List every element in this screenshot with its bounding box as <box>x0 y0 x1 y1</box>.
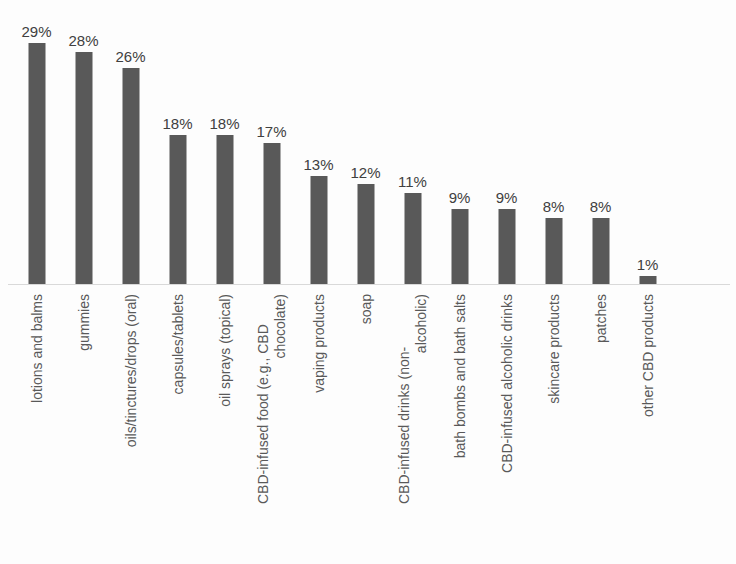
category-label: skincare products <box>545 294 562 404</box>
bar[interactable] <box>639 276 656 284</box>
bar-value-label: 12% <box>350 164 380 181</box>
category-label-slot: oils/tinctures/drops (oral) <box>107 290 154 564</box>
bar-value-label: 9% <box>496 189 518 206</box>
bar[interactable] <box>75 52 92 284</box>
bar[interactable] <box>451 209 468 284</box>
bar-group: 18% <box>154 0 201 284</box>
category-label-slot: CBD-infused food (e.g., CBDchocolate) <box>248 290 295 564</box>
category-label: CBD-infused drinks (non-alcoholic) <box>396 294 430 504</box>
category-label: CBD-infused alcoholic drinks <box>498 294 515 473</box>
bar-value-label: 9% <box>449 189 471 206</box>
category-label-slot: skincare products <box>530 290 577 564</box>
bar-group: 17% <box>248 0 295 284</box>
category-label-line: CBD-infused alcoholic drinks <box>498 294 515 473</box>
bar-value-label: 18% <box>209 115 239 132</box>
bar[interactable] <box>592 218 609 284</box>
bar-value-label: 1% <box>637 256 659 273</box>
bar-value-label: 17% <box>256 123 286 140</box>
bar-group: 9% <box>436 0 483 284</box>
category-label-slot: lotions and balms <box>13 290 60 564</box>
plot-area: 29%28%26%18%18%17%13%12%11%9%9%8%8%1% <box>0 0 736 290</box>
bar[interactable] <box>28 43 45 284</box>
bar-chart: 29%28%26%18%18%17%13%12%11%9%9%8%8%1% lo… <box>0 0 736 564</box>
category-label-slot: gummies <box>60 290 107 564</box>
category-label-slot: patches <box>577 290 624 564</box>
bar[interactable] <box>216 135 233 284</box>
bar[interactable] <box>404 193 421 284</box>
category-label-line: CBD-infused food (e.g., CBD <box>255 294 272 504</box>
category-label-line: vaping products <box>310 294 327 393</box>
category-label: other CBD products <box>639 294 656 417</box>
bar-value-label: 11% <box>398 173 427 190</box>
category-label-line: bath bombs and bath salts <box>451 294 468 458</box>
bar[interactable] <box>310 176 327 284</box>
category-label: oils/tinctures/drops (oral) <box>122 294 139 447</box>
category-label-line: lotions and balms <box>28 294 45 403</box>
category-label-line: gummies <box>75 294 92 351</box>
bar-group: 8% <box>577 0 624 284</box>
category-label-line: skincare products <box>545 294 562 404</box>
bar-group: 26% <box>107 0 154 284</box>
bar-value-label: 28% <box>68 32 98 49</box>
category-label-slot: CBD-infused alcoholic drinks <box>483 290 530 564</box>
category-label-line: patches <box>592 294 609 343</box>
category-label: oil sprays (topical) <box>216 294 233 407</box>
bar-group: 29% <box>13 0 60 284</box>
category-label-slot: bath bombs and bath salts <box>436 290 483 564</box>
bar[interactable] <box>545 218 562 284</box>
bar-group: 13% <box>295 0 342 284</box>
category-label-line: soap <box>357 294 374 324</box>
bar-group: 28% <box>60 0 107 284</box>
category-label-line: CBD-infused drinks (non- <box>396 294 413 504</box>
category-label-line: alcoholic) <box>413 294 430 504</box>
category-label: capsules/tablets <box>169 294 186 394</box>
bar-value-label: 18% <box>162 115 192 132</box>
category-label: soap <box>357 294 374 324</box>
category-axis-line <box>8 284 730 285</box>
bar[interactable] <box>357 184 374 284</box>
category-label-line: capsules/tablets <box>169 294 186 394</box>
bar-value-label: 29% <box>21 23 51 40</box>
bar-group: 18% <box>201 0 248 284</box>
category-label: patches <box>592 294 609 343</box>
category-label: lotions and balms <box>28 294 45 403</box>
category-label-slot: oil sprays (topical) <box>201 290 248 564</box>
bar[interactable] <box>122 68 139 284</box>
category-label-slot: vaping products <box>295 290 342 564</box>
bar[interactable] <box>169 135 186 284</box>
bar-group: 1% <box>624 0 671 284</box>
category-label-slot: soap <box>342 290 389 564</box>
category-label-slot: CBD-infused drinks (non-alcoholic) <box>389 290 436 564</box>
category-label: vaping products <box>310 294 327 393</box>
category-label: CBD-infused food (e.g., CBDchocolate) <box>255 294 289 504</box>
category-label: bath bombs and bath salts <box>451 294 468 458</box>
category-axis-labels: lotions and balmsgummiesoils/tinctures/d… <box>0 290 736 564</box>
bar-value-label: 13% <box>303 156 333 173</box>
bar-group: 11% <box>389 0 436 284</box>
category-label-line: chocolate) <box>272 294 289 504</box>
category-label: gummies <box>75 294 92 351</box>
bar-group: 9% <box>483 0 530 284</box>
bar-value-label: 26% <box>115 48 145 65</box>
bar[interactable] <box>498 209 515 284</box>
category-label-line: other CBD products <box>639 294 656 417</box>
category-label-slot: other CBD products <box>624 290 671 564</box>
category-label-slot: capsules/tablets <box>154 290 201 564</box>
bar-group: 8% <box>530 0 577 284</box>
bar-group: 12% <box>342 0 389 284</box>
bar[interactable] <box>263 143 280 284</box>
category-label-line: oil sprays (topical) <box>216 294 233 407</box>
category-label-line: oils/tinctures/drops (oral) <box>122 294 139 447</box>
bar-value-label: 8% <box>590 198 612 215</box>
bar-value-label: 8% <box>543 198 565 215</box>
